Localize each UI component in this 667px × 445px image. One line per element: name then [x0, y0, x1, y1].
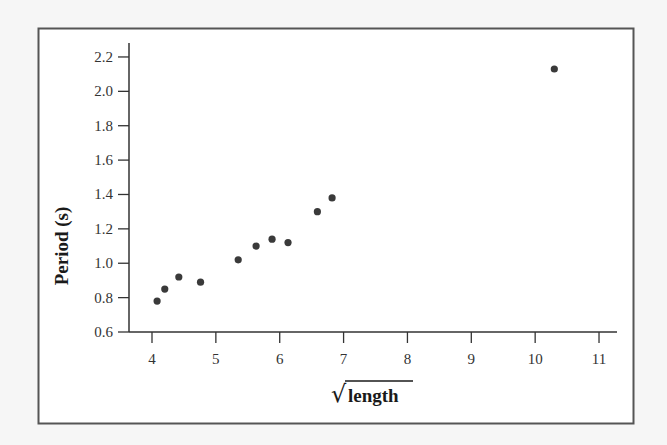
- y-tick-label: 0.8: [94, 290, 113, 306]
- data-point: [161, 285, 168, 292]
- y-tick-label: 0.6: [94, 324, 113, 340]
- x-tick-label: 10: [528, 351, 543, 367]
- chart-figure: 0.60.81.01.21.41.61.82.02.2 4567891011 P…: [0, 0, 667, 445]
- data-point: [252, 242, 259, 249]
- y-tick-label: 1.8: [94, 118, 113, 134]
- data-point: [551, 65, 558, 72]
- chart-frame: [39, 29, 634, 424]
- y-tick-label: 1.4: [94, 186, 113, 202]
- y-tick-label: 1.0: [94, 255, 113, 271]
- y-tick-label: 2.2: [94, 49, 113, 65]
- y-axis-title: Period (s): [51, 207, 73, 286]
- data-point: [235, 256, 242, 263]
- x-axis-title-text: length: [348, 385, 399, 406]
- data-point: [175, 273, 182, 280]
- square-root-icon: √: [331, 380, 347, 408]
- y-tick-label: 1.6: [94, 152, 113, 168]
- y-tick-label: 1.2: [94, 221, 113, 237]
- x-tick-label: 4: [148, 351, 156, 367]
- x-tick-label: 5: [212, 351, 220, 367]
- x-tick-label: 11: [592, 351, 606, 367]
- data-point: [268, 236, 275, 243]
- x-tick-label: 6: [276, 351, 284, 367]
- y-tick-label: 2.0: [94, 83, 113, 99]
- x-tick-label: 9: [468, 351, 476, 367]
- data-point: [284, 239, 291, 246]
- x-tick-label: 8: [404, 351, 412, 367]
- x-tick-label: 7: [340, 351, 348, 367]
- data-point: [154, 297, 161, 304]
- scatter-plot: 0.60.81.01.21.41.61.82.02.2 4567891011 P…: [0, 0, 667, 445]
- data-point: [197, 279, 204, 286]
- data-point: [328, 194, 335, 201]
- data-point: [314, 208, 321, 215]
